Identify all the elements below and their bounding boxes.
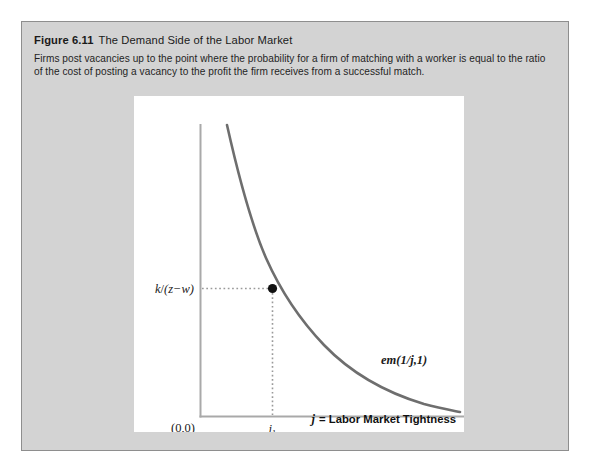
curve-label: em(1/j,1): [381, 353, 427, 367]
y-axis-label-denominator: (z−w): [164, 282, 194, 296]
figure-header: Figure 6.11The Demand Side of the Labor …: [34, 33, 558, 79]
figure-caption: Firms post vacancies up to the point whe…: [34, 52, 554, 79]
x-axis-title-symbol: j: [310, 412, 316, 426]
figure-title-line: Figure 6.11The Demand Side of the Labor …: [34, 33, 558, 48]
page-title: The Demand Side of the Labor Market: [99, 34, 293, 46]
figure-number: Figure 6.11: [34, 34, 94, 46]
y-axis-label: k/(z−w): [155, 282, 194, 296]
curve-label-name: em: [381, 353, 397, 367]
demand-curve: [227, 125, 460, 412]
demand-side-labor-market-chart: k/(z−w) (0,0) j1 em(1/j,1): [134, 96, 464, 432]
curve-label-args: (1/j,1): [396, 353, 427, 367]
figure-card: Figure 6.11The Demand Side of the Labor …: [21, 21, 569, 451]
equilibrium-point-marker: [268, 284, 277, 293]
x-axis-title-text: = Labor Market Tightness: [319, 413, 456, 425]
x-axis-title: j= Labor Market Tightness: [310, 412, 456, 426]
chart-panel: k/(z−w) (0,0) j1 em(1/j,1) j= Labor Mark…: [134, 96, 464, 432]
x-axis-title-group: j= Labor Market Tightness: [134, 406, 464, 430]
